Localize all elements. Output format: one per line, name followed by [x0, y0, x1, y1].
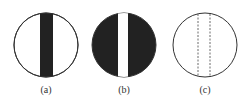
- label-a: (a): [40, 84, 51, 96]
- label-b: (b): [118, 84, 130, 96]
- figure-canvas: (a) (b) (c): [0, 0, 245, 103]
- circle-c: [173, 13, 237, 77]
- panel-a: (a): [14, 10, 78, 96]
- black-bar-a: [40, 10, 53, 80]
- panel-b: (b): [92, 10, 156, 96]
- label-c: (c): [199, 84, 210, 96]
- panel-c: (c): [173, 13, 237, 96]
- white-bar-b: [118, 10, 128, 80]
